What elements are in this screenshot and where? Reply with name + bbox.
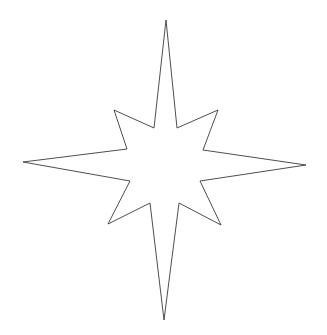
- eight-pointed-star-icon: [23, 20, 306, 320]
- star-canvas: [0, 0, 327, 335]
